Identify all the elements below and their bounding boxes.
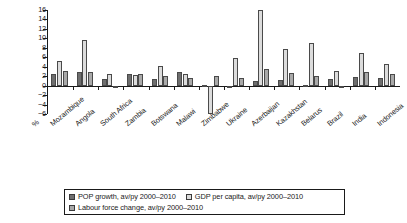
x-axis-tick-mark	[73, 86, 74, 90]
y-axis-tick-mark	[43, 76, 47, 77]
bar	[289, 73, 294, 86]
bar	[353, 77, 358, 86]
bar	[264, 69, 269, 86]
y-axis-tick-mark	[43, 105, 47, 106]
x-axis-tick-mark	[149, 86, 150, 90]
x-axis-tick-mark	[325, 86, 326, 90]
bar	[82, 40, 87, 86]
y-axis-tick-mark	[43, 86, 47, 87]
legend-label-gdp-per-capita: GDP per capita, av/py 2000–2010	[195, 193, 303, 201]
legend-row-1: POP growth, av/py 2000–2010 GDP per capi…	[69, 192, 340, 202]
bar	[328, 79, 333, 86]
bar	[102, 79, 107, 85]
y-axis-tick-labels: 1614121086420−2−4−6	[24, 10, 46, 114]
x-axis-tick-mark	[224, 86, 225, 90]
x-axis-tick-mark	[274, 86, 275, 90]
bar	[51, 74, 56, 85]
bar	[208, 86, 213, 114]
bar	[384, 64, 389, 85]
legend-swatch-gdp-per-capita-icon	[186, 194, 192, 200]
bar	[364, 72, 369, 85]
bar	[158, 66, 163, 86]
y-axis-tick-mark	[43, 19, 47, 20]
bar	[63, 71, 68, 86]
bar	[163, 76, 168, 86]
x-axis-tick-mark	[98, 86, 99, 90]
bar	[127, 74, 132, 85]
x-axis-tick-mark	[199, 86, 200, 90]
x-axis-tick-mark	[174, 86, 175, 90]
bar	[378, 78, 383, 86]
bar	[278, 80, 283, 86]
legend-label-labour-force-change: Labour force change, av/py 2000–2010	[78, 204, 203, 212]
legend-item-gdp-per-capita: GDP per capita, av/py 2000–2010	[186, 193, 303, 201]
y-axis-tick-mark	[43, 95, 47, 96]
bar	[390, 74, 395, 85]
y-axis-tick-mark	[43, 10, 47, 11]
bar	[152, 79, 157, 86]
legend-item-labour-force-change: Labour force change, av/py 2000–2010	[69, 204, 203, 212]
legend-swatch-labour-force-change-icon	[69, 205, 75, 211]
bar	[233, 58, 238, 86]
bar	[138, 74, 143, 86]
x-axis-tick-mark	[350, 86, 351, 90]
legend-row-2: Labour force change, av/py 2000–2010	[69, 203, 340, 213]
bar	[188, 78, 193, 86]
chart-legend: POP growth, av/py 2000–2010 GDP per capi…	[64, 189, 345, 215]
bar	[107, 74, 112, 86]
legend-item-pop-growth: POP growth, av/py 2000–2010	[69, 193, 176, 201]
bar	[57, 61, 62, 86]
y-axis-tick-mark	[43, 57, 47, 58]
x-axis-tick-mark	[375, 86, 376, 90]
x-axis-tick-mark	[249, 86, 250, 90]
legend-swatch-pop-growth-icon	[69, 194, 75, 200]
bar	[133, 75, 138, 86]
bar	[183, 74, 188, 86]
bar	[239, 78, 244, 86]
x-axis-label: India	[351, 112, 368, 128]
bar	[202, 85, 207, 87]
bar	[334, 71, 339, 85]
bar	[258, 10, 263, 86]
bar	[339, 86, 344, 88]
bar	[214, 76, 219, 85]
percent-axis-label: %	[30, 118, 41, 129]
bar	[309, 43, 314, 86]
bar	[303, 85, 308, 87]
bar	[88, 72, 93, 85]
x-axis-tick-mark	[123, 86, 124, 90]
bar	[359, 53, 364, 86]
bar	[283, 49, 288, 85]
legend-label-pop-growth: POP growth, av/py 2000–2010	[78, 193, 176, 201]
bar	[177, 72, 182, 86]
chart-figure: 1614121086420−2−4−6 % MozambiqueAngolaSo…	[0, 0, 407, 223]
y-axis-tick-mark	[43, 67, 47, 68]
y-axis-tick-mark	[43, 29, 47, 30]
bar	[113, 86, 118, 88]
y-axis-tick-mark	[43, 114, 47, 115]
y-axis-tick-mark	[43, 38, 47, 39]
bar	[227, 86, 232, 88]
x-axis-tick-mark	[299, 86, 300, 90]
bar	[253, 81, 258, 86]
plot-area	[48, 10, 400, 114]
y-axis-tick-mark	[43, 48, 47, 49]
bar	[314, 76, 319, 86]
bar	[77, 72, 82, 86]
